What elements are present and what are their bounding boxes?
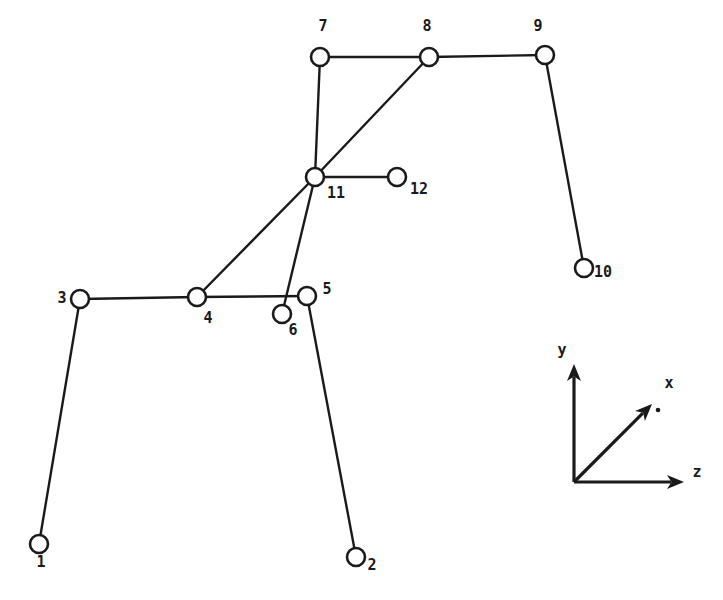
member-4-11 — [197, 177, 315, 297]
axis-label-y: y — [557, 341, 566, 359]
node-marker-11[interactable] — [306, 168, 324, 186]
diagram-canvas: 123456789101112 yzx — [0, 0, 723, 600]
node-label-5: 5 — [322, 280, 331, 298]
node-marker-2[interactable] — [347, 548, 365, 566]
member-lines-group — [39, 55, 584, 557]
member-1-3 — [39, 299, 80, 544]
node-marker-3[interactable] — [71, 290, 89, 308]
member-8-9 — [429, 55, 545, 57]
axis-label-z: z — [692, 463, 701, 481]
node-marker-1[interactable] — [30, 535, 48, 553]
node-marker-7[interactable] — [311, 48, 329, 66]
coordinate-axis-triad: yzx — [557, 341, 701, 489]
x-axis-dot-icon — [656, 408, 661, 413]
node-marker-10[interactable] — [575, 259, 593, 277]
member-5-2 — [307, 296, 356, 557]
node-label-1: 1 — [36, 553, 45, 571]
node-label-10: 10 — [594, 263, 612, 281]
axis-label-x: x — [664, 374, 673, 392]
node-label-6: 6 — [288, 321, 297, 339]
node-marker-5[interactable] — [298, 287, 316, 305]
node-marker-9[interactable] — [536, 46, 554, 64]
node-marker-12[interactable] — [388, 168, 406, 186]
node-label-12: 12 — [410, 180, 428, 198]
node-label-9: 9 — [533, 17, 542, 35]
member-9-10 — [545, 55, 584, 268]
nodes-group — [30, 46, 593, 566]
member-11-7 — [315, 57, 320, 177]
member-11-8 — [315, 57, 429, 177]
node-labels-group: 123456789101112 — [36, 17, 612, 574]
axis-line-x — [574, 413, 643, 482]
node-label-2: 2 — [367, 556, 376, 574]
node-label-4: 4 — [203, 309, 212, 327]
node-label-11: 11 — [327, 184, 345, 202]
structural-frame-diagram: 123456789101112 yzx — [0, 0, 723, 600]
member-3-4 — [80, 297, 197, 299]
node-marker-4[interactable] — [188, 288, 206, 306]
member-4-5 — [197, 296, 307, 297]
node-label-7: 7 — [318, 17, 327, 35]
node-marker-8[interactable] — [420, 48, 438, 66]
node-label-8: 8 — [422, 17, 431, 35]
node-label-3: 3 — [57, 289, 66, 307]
